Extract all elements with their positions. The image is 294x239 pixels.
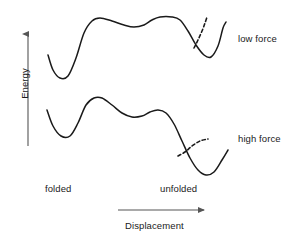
unfolded-state-label: unfolded bbox=[160, 183, 197, 194]
energy-axis-label: Energy bbox=[19, 54, 30, 114]
folded-state-label: folded bbox=[45, 183, 71, 194]
energy-landscape-figure: low force high force folded unfolded Dis… bbox=[0, 0, 294, 239]
high-force-curve bbox=[47, 97, 228, 175]
displacement-axis-label: Displacement bbox=[125, 220, 184, 231]
low-force-label: low force bbox=[238, 33, 277, 44]
curve-group bbox=[47, 17, 228, 175]
high-force-label: high force bbox=[238, 133, 281, 144]
low-force-dashed-branch bbox=[194, 17, 207, 48]
low-force-curve bbox=[48, 17, 226, 79]
